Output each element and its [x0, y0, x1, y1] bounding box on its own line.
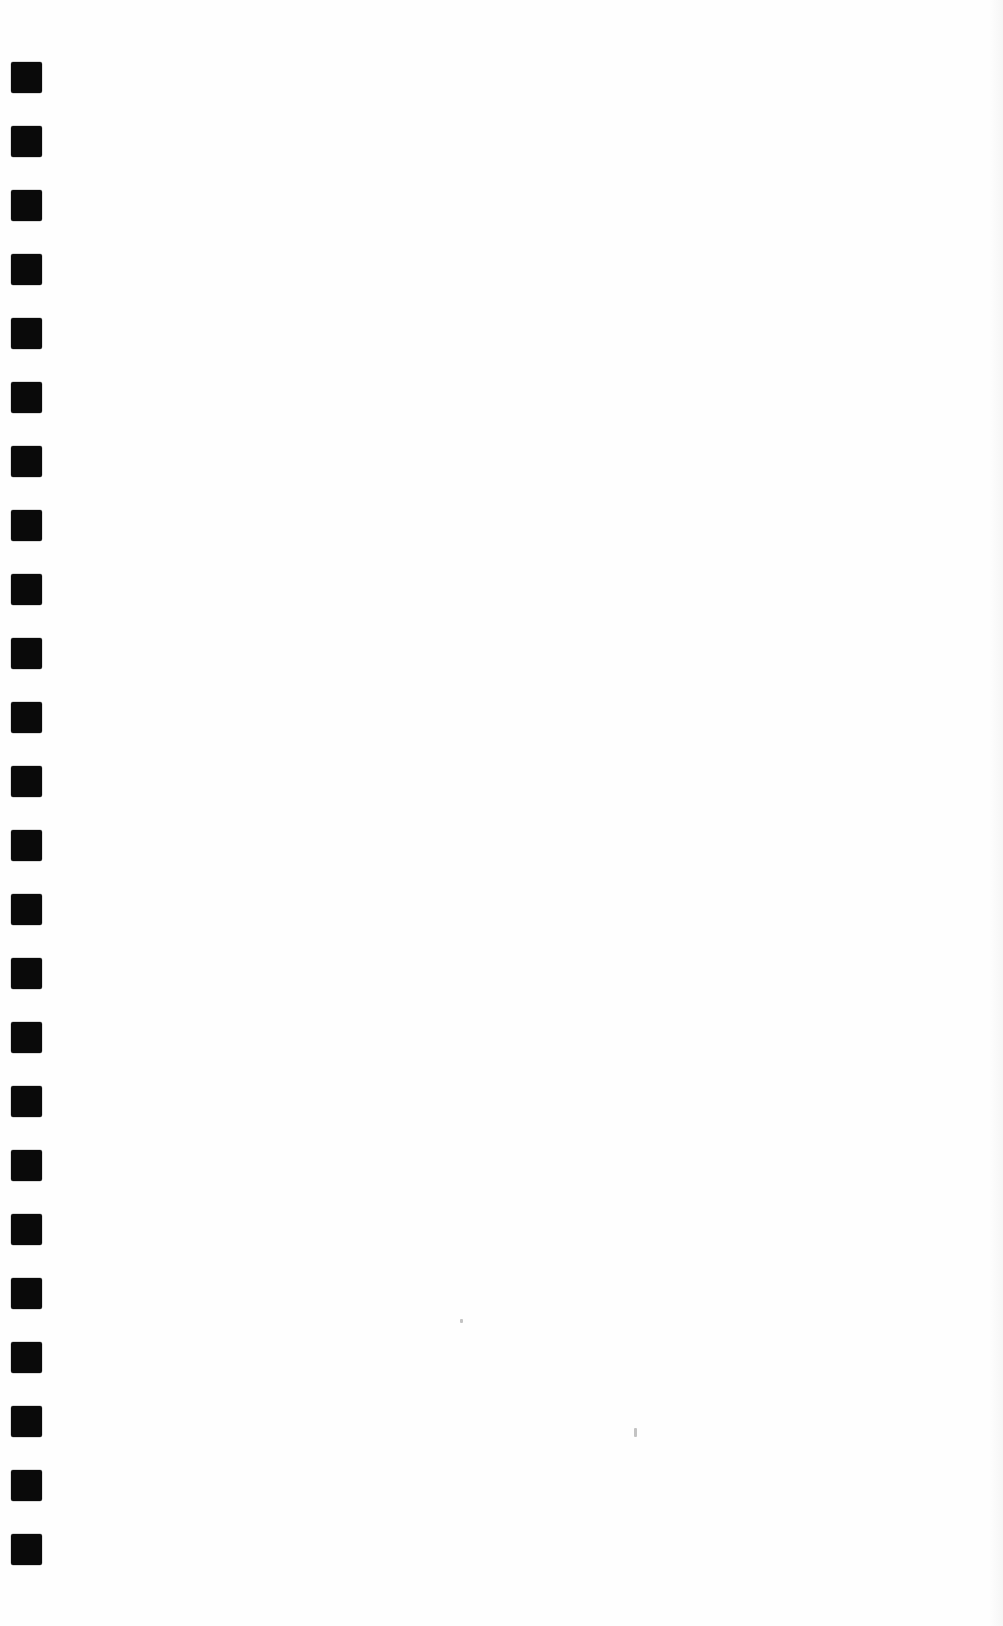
binding-mark [11, 1534, 42, 1565]
binding-mark [11, 318, 42, 349]
scanned-page [0, 0, 1003, 1626]
binding-mark [11, 254, 42, 285]
binding-mark [11, 638, 42, 669]
binding-mark [11, 574, 42, 605]
binding-mark [11, 126, 42, 157]
binding-mark [11, 1278, 42, 1309]
binding-mark [11, 1406, 42, 1437]
binding-marks-column [0, 0, 60, 1626]
binding-mark [11, 510, 42, 541]
binding-mark [11, 1150, 42, 1181]
binding-mark [11, 894, 42, 925]
binding-mark [11, 190, 42, 221]
binding-mark [11, 702, 42, 733]
page-content-area [60, 0, 1003, 1626]
binding-mark [11, 1022, 42, 1053]
binding-mark [11, 958, 42, 989]
binding-mark [11, 830, 42, 861]
binding-mark [11, 446, 42, 477]
binding-mark [11, 62, 42, 93]
binding-mark [11, 1342, 42, 1373]
binding-mark [11, 1086, 42, 1117]
binding-mark [11, 1214, 42, 1245]
binding-mark [11, 382, 42, 413]
binding-mark [11, 766, 42, 797]
binding-mark [11, 1470, 42, 1501]
